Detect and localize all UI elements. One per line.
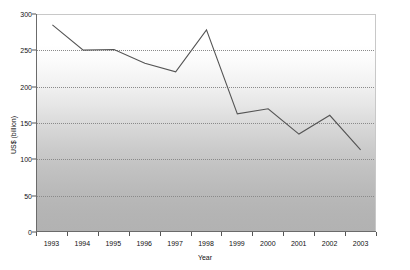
x-tick-label: 2001 [291,240,307,247]
x-tick-mark [98,232,99,236]
y-tick-label: 200 [2,83,32,90]
series-polyline [52,25,360,150]
x-tick-mark [283,232,284,236]
x-tick-label: 2002 [322,240,338,247]
x-tick-label: 1997 [167,240,183,247]
x-tick-mark [252,232,253,236]
y-tick-label: 0 [2,229,32,236]
x-tick-mark [376,232,377,236]
series-line [37,14,376,231]
y-tick-label: 50 [2,192,32,199]
line-chart: US$ (billion) 050100150200250300 1993199… [0,0,410,270]
x-tick-mark [191,232,192,236]
x-tick-label: 1994 [75,240,91,247]
y-tick-label: 300 [2,11,32,18]
x-tick-label: 2003 [353,240,369,247]
x-tick-label: 2000 [260,240,276,247]
y-tick-label: 150 [2,120,32,127]
y-tick-label: 250 [2,47,32,54]
plot-area [36,14,376,232]
x-tick-mark [36,232,37,236]
x-axis-title: Year [0,254,410,261]
x-tick-mark [160,232,161,236]
x-tick-mark [67,232,68,236]
x-tick-mark [345,232,346,236]
x-tick-mark [314,232,315,236]
x-tick-label: 1993 [44,240,60,247]
y-tick-label: 100 [2,156,32,163]
x-tick-label: 1996 [136,240,152,247]
x-tick-mark [221,232,222,236]
x-tick-label: 1995 [105,240,121,247]
x-tick-mark [129,232,130,236]
x-tick-label: 1998 [198,240,214,247]
x-tick-label: 1999 [229,240,245,247]
